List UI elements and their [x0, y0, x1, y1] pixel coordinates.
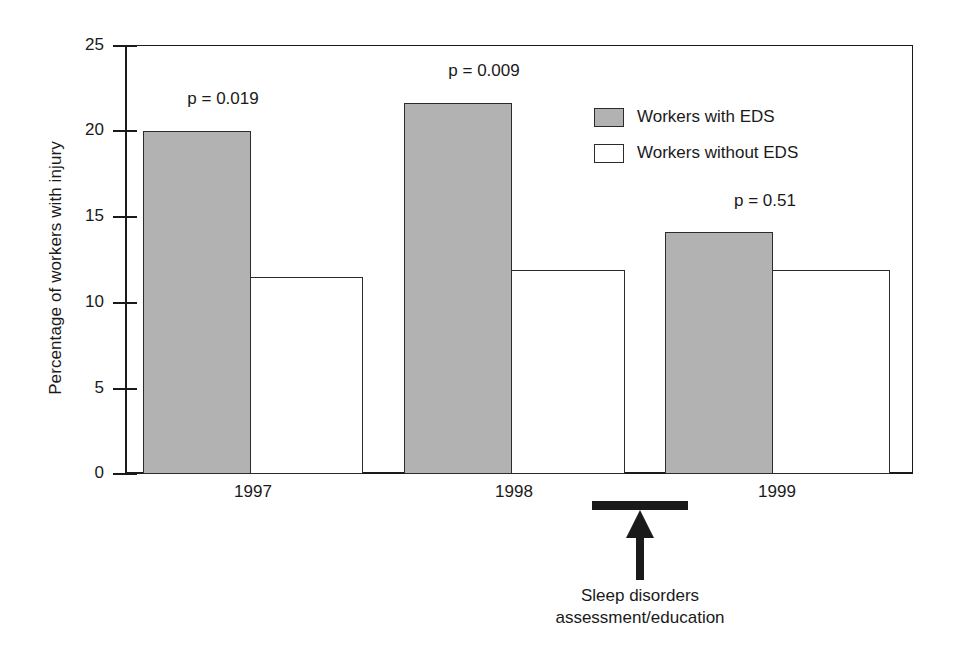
bar-1997-workers-with-eds[interactable]	[143, 131, 251, 474]
x-axis-label-1998: 1998	[424, 482, 604, 502]
bar-chart-figure: Percentage of workers with injury 25 20 …	[0, 0, 953, 661]
p-value-label-1999: p = 0.51	[675, 191, 855, 211]
y-tick-label-15: 15	[85, 206, 104, 226]
bar-1998-workers-without-eds[interactable]	[511, 270, 625, 474]
p-value-label-1997: p = 0.019	[133, 89, 313, 109]
legend-label-workers-without-eds: Workers without EDS	[637, 143, 798, 163]
legend-swatch-gray-icon	[594, 108, 624, 127]
p-value-label-1998: p = 0.009	[394, 61, 574, 81]
y-tick-label-10: 10	[85, 292, 104, 312]
y-tick-label-0: 0	[95, 463, 104, 483]
y-tick-label-20: 20	[85, 120, 104, 140]
intervention-arrow-icon	[621, 508, 659, 580]
intervention-caption-line2: assessment/education	[440, 607, 840, 629]
intervention-caption-line1: Sleep disorders	[440, 585, 840, 607]
legend-item-workers-without-eds[interactable]: Workers without EDS	[594, 135, 798, 171]
y-axis-title: Percentage of workers with injury	[46, 58, 66, 478]
x-axis-label-1999: 1999	[687, 482, 867, 502]
y-tick-label-25: 25	[85, 35, 104, 55]
legend-item-workers-with-eds[interactable]: Workers with EDS	[594, 99, 798, 135]
bar-1999-workers-with-eds[interactable]	[665, 232, 773, 474]
y-tick-label-5: 5	[95, 378, 104, 398]
bar-1999-workers-without-eds[interactable]	[772, 270, 890, 474]
legend: Workers with EDS Workers without EDS	[594, 99, 798, 171]
legend-swatch-white-icon	[594, 144, 624, 163]
bar-1997-workers-without-eds[interactable]	[250, 277, 363, 474]
legend-label-workers-with-eds: Workers with EDS	[637, 107, 775, 127]
bar-1998-workers-with-eds[interactable]	[404, 103, 512, 474]
x-axis-label-1997: 1997	[163, 482, 343, 502]
intervention-caption: Sleep disorders assessment/education	[440, 585, 840, 629]
